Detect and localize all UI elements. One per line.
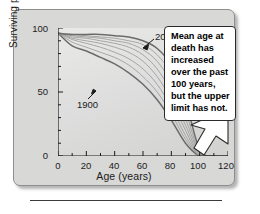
figure-panel: Surviving population (%) 100 50 0 0 20 4… <box>13 9 235 186</box>
callout-box: Mean age at death has increased over the… <box>164 26 236 121</box>
survivorship-curve-figure: Surviving population (%) 100 50 0 0 20 4… <box>0 0 260 214</box>
figure-rule <box>30 200 222 201</box>
